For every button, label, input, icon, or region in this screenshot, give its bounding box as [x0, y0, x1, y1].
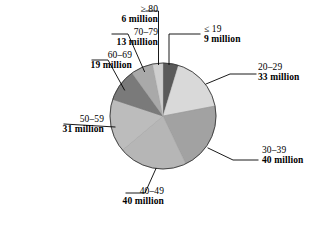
leader-line-20-29: [206, 74, 256, 84]
pie-label-30-39-category: 30–39: [262, 145, 320, 155]
pie-label-60-69-value: 19 million: [46, 60, 132, 70]
pie-label-30-39: 30–39 40 million: [262, 145, 320, 166]
pie-label-ge80-category: ≥ 80: [96, 4, 158, 14]
pie-label-50-59-value: 31 million: [20, 124, 104, 134]
pie-label-30-39-value: 40 million: [262, 155, 320, 165]
pie-chart-figure: ≥ 80 6 million 70–79 13 million 60–69 19…: [0, 0, 322, 227]
pie-label-70-79-value: 13 million: [74, 37, 158, 47]
pie-label-40-49-value: 40 million: [80, 196, 164, 206]
pie-label-40-49-category: 40–49: [80, 186, 164, 196]
pie-label-le19-value: 9 million: [204, 34, 266, 44]
pie-slices: [110, 63, 216, 169]
pie-label-50-59: 50–59 31 million: [20, 114, 104, 135]
pie-label-70-79: 70–79 13 million: [74, 27, 158, 48]
pie-label-20-29-category: 20–29: [258, 62, 320, 72]
pie-label-le19-category: ≤ 19: [204, 24, 266, 34]
leader-line-30-39: [208, 148, 258, 160]
pie-label-50-59-category: 50–59: [20, 114, 104, 124]
pie-label-60-69: 60–69 19 million: [46, 50, 132, 71]
pie-label-60-69-category: 60–69: [46, 50, 132, 60]
pie-label-70-79-category: 70–79: [74, 27, 158, 37]
pie-label-20-29-value: 33 million: [258, 72, 320, 82]
leader-line-le19: [169, 34, 200, 65]
pie-label-le19: ≤ 19 9 million: [204, 24, 266, 45]
pie-label-40-49: 40–49 40 million: [80, 186, 164, 207]
pie-label-20-29: 20–29 33 million: [258, 62, 320, 83]
pie-label-ge80-value: 6 million: [96, 14, 158, 24]
pie-label-ge80: ≥ 80 6 million: [96, 4, 158, 25]
